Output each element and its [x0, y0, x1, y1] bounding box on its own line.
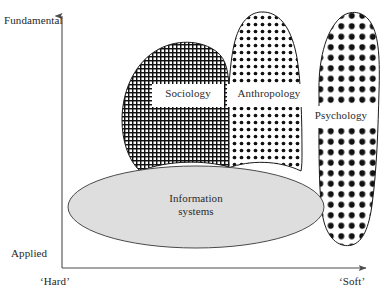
region-label-information-systems-line1: Information — [152, 192, 240, 205]
region-label-anthropology: Anthropology — [227, 84, 311, 107]
diagram-figure: Fundamental Applied ‘Hard’ ‘Soft’ Sociol… — [0, 0, 384, 300]
region-label-information-systems: Information systems — [152, 190, 240, 224]
y-axis-bottom-label: Applied — [11, 247, 47, 259]
diagram-canvas — [0, 0, 384, 300]
region-label-information-systems-line2: systems — [152, 205, 240, 218]
region-label-sociology: Sociology — [152, 84, 224, 107]
x-axis-left-label: ‘Hard’ — [40, 275, 70, 287]
x-axis-right-label: ‘Soft’ — [339, 275, 365, 287]
region-psychology — [319, 12, 379, 245]
region-label-psychology: Psychology — [306, 106, 376, 128]
y-axis-top-label: Fundamental — [4, 14, 63, 26]
